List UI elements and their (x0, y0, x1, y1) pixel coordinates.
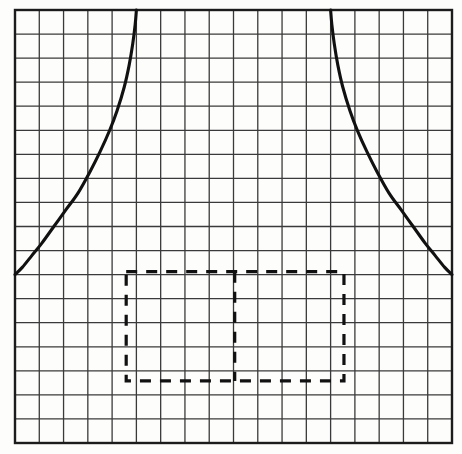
graph-figure: Graph paper plot of a symmetric curve wi… (0, 0, 462, 454)
graph-paper-canvas (0, 0, 462, 454)
